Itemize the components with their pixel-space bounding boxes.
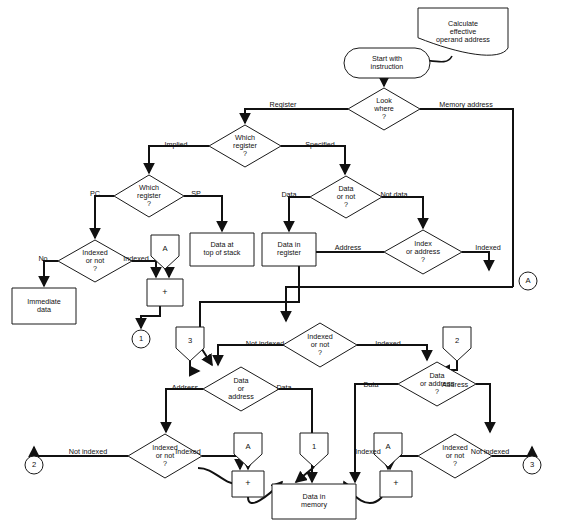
node-idxoraddr[interactable]: Indexor address? bbox=[384, 230, 462, 274]
node-label: ? bbox=[243, 149, 247, 158]
node-idxornot3[interactable]: Indexedor not? bbox=[128, 434, 202, 478]
connector-whichreg1-specified bbox=[281, 146, 345, 174]
node-start[interactable]: Start withinstruction bbox=[344, 48, 430, 78]
node-label: ? bbox=[453, 459, 457, 468]
node-layer: Calculateeffectiveoperand addressStart w… bbox=[12, 8, 541, 519]
edge-label-lbl-register: Register bbox=[270, 100, 297, 109]
node-lookwhere[interactable]: Lookwhere? bbox=[348, 88, 420, 130]
edge-label-lbl-specified: Specified bbox=[305, 140, 335, 149]
node-label: 2 bbox=[32, 460, 36, 469]
node-label: ? bbox=[93, 264, 97, 273]
connector-off3-in bbox=[190, 361, 199, 371]
connector-whichreg1-implied bbox=[149, 146, 209, 173]
node-whichreg2[interactable]: Whichregister? bbox=[114, 175, 184, 217]
edge-label-lbl-sp: SP bbox=[191, 189, 201, 198]
node-label: ? bbox=[147, 199, 151, 208]
edge-label-lbl-notindexed1: Not indexed bbox=[246, 339, 284, 348]
node-conA1[interactable]: A bbox=[519, 272, 537, 290]
node-label: ? bbox=[163, 459, 167, 468]
node-off2[interactable]: 2 bbox=[443, 327, 471, 361]
node-label: data bbox=[37, 305, 51, 314]
node-label: 1 bbox=[312, 442, 316, 451]
edge-label-lbl-address3: Address bbox=[442, 380, 469, 389]
node-con3[interactable]: 3 bbox=[523, 456, 541, 474]
edge-label-lbl-memaddress: Memory address bbox=[439, 100, 493, 109]
edge-label-lbl-indexed2: Indexed bbox=[475, 243, 501, 252]
node-label: 1 bbox=[139, 334, 143, 343]
node-idxornot4[interactable]: Indexedor not? bbox=[418, 434, 492, 478]
node-dataoraddrL[interactable]: Dataoraddress bbox=[203, 367, 279, 411]
edge-label-lbl-notdata: Not data bbox=[380, 190, 407, 199]
connector-dataR-address bbox=[476, 384, 490, 432]
connector-memaddr-down bbox=[286, 287, 513, 321]
connector-adderA-con1 bbox=[141, 306, 160, 328]
edge-label-lbl-data2: Data bbox=[276, 383, 291, 392]
node-label: register bbox=[277, 248, 302, 257]
edge-label-lbl-notindexed3: Not indexed bbox=[471, 447, 509, 456]
node-note[interactable]: Calculateeffectiveoperand address bbox=[418, 8, 508, 55]
edge-label-lbl-indexed5: Indexed bbox=[355, 447, 381, 456]
connector-lookwhere-register bbox=[245, 109, 348, 123]
node-con1[interactable]: 1 bbox=[132, 330, 150, 348]
node-idxornot1[interactable]: Indexedor not? bbox=[58, 240, 132, 282]
connector-idx1-indexed bbox=[132, 261, 156, 277]
node-label: + bbox=[245, 478, 250, 488]
node-label: + bbox=[393, 478, 398, 488]
edge-label-lbl-no: No bbox=[38, 254, 47, 263]
node-label: + bbox=[162, 287, 167, 297]
edge-label-lbl-notindexed2: Not indexed bbox=[69, 447, 107, 456]
node-label: 3 bbox=[188, 336, 192, 345]
node-label: ? bbox=[435, 387, 439, 396]
node-topstack[interactable]: Data attop of stack bbox=[190, 233, 254, 266]
edge-label-lbl-indexed1: Indexed bbox=[123, 254, 149, 263]
connector-datornot-notdata bbox=[382, 197, 423, 228]
node-label: ? bbox=[421, 255, 425, 264]
flowchart-svg: Calculateeffectiveoperand addressStart w… bbox=[0, 0, 563, 531]
node-datornot[interactable]: Dataor not? bbox=[310, 176, 382, 218]
connector-idx2-notindexed bbox=[218, 345, 283, 365]
node-label: top of stack bbox=[204, 248, 241, 257]
node-idxornot2[interactable]: Indexedor not? bbox=[283, 323, 357, 367]
connector-datornot-data bbox=[289, 197, 310, 231]
edge-label-lbl-pc: PC bbox=[90, 189, 100, 198]
node-label: 3 bbox=[530, 460, 534, 469]
edge-label-lbl-indexed4: Indexed bbox=[175, 447, 201, 456]
node-label: 2 bbox=[455, 336, 459, 345]
node-off3[interactable]: 3 bbox=[176, 327, 204, 361]
edge-label-lbl-address2: Address bbox=[172, 383, 199, 392]
node-datareg[interactable]: Data inregister bbox=[262, 233, 316, 266]
connector-idx1-no bbox=[44, 261, 58, 286]
edge-label-lbl-implied: Implied bbox=[164, 140, 187, 149]
edge-label-lbl-data3: Data bbox=[363, 380, 378, 389]
node-label: ? bbox=[344, 200, 348, 209]
edge-label-lbl-data1: Data bbox=[281, 190, 296, 199]
connector-idx3-indexed bbox=[202, 456, 240, 469]
connector-dataL-address bbox=[166, 389, 203, 432]
node-con2[interactable]: 2 bbox=[25, 456, 43, 474]
node-regA2[interactable]: A bbox=[234, 433, 262, 467]
connector-idxaddr-indexed bbox=[462, 252, 489, 270]
node-label: memory bbox=[301, 500, 327, 509]
node-adderB[interactable]: + bbox=[232, 471, 264, 497]
node-adderC[interactable]: + bbox=[380, 471, 412, 497]
node-label: instruction bbox=[371, 62, 404, 71]
node-label: address bbox=[228, 392, 254, 401]
edge-label-lbl-indexed3: Indexed bbox=[375, 339, 401, 348]
node-label: operand address bbox=[436, 35, 490, 44]
node-datamem[interactable]: Data inmemory bbox=[272, 484, 356, 519]
edge-label-lbl-address1: Address bbox=[335, 243, 362, 252]
connector-whichreg2-pc bbox=[95, 196, 114, 238]
flowchart-canvas: Calculateeffectiveoperand addressStart w… bbox=[0, 0, 563, 531]
connector-whichreg2-sp bbox=[184, 196, 222, 231]
node-off1[interactable]: 1 bbox=[300, 433, 328, 467]
node-label: ? bbox=[318, 348, 322, 357]
node-label: ? bbox=[382, 112, 386, 121]
node-adderA[interactable]: + bbox=[147, 279, 183, 306]
node-immediate[interactable]: Immediatedata bbox=[12, 288, 76, 324]
node-whichreg1[interactable]: Whichregister? bbox=[209, 125, 281, 167]
